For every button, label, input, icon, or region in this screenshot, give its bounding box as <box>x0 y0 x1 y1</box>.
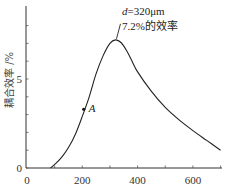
x-tick-label: 400 <box>129 174 146 186</box>
peak-annotation-line2: 7.2%的效率 <box>122 19 178 32</box>
y-axis-label: 耦合效率 /% <box>3 52 15 108</box>
peak-annotation-line1: d=320μm <box>122 5 165 17</box>
tick-labels: 020040060005 <box>17 73 202 186</box>
peak-leader-line <box>116 24 120 39</box>
y-tick-label: 5 <box>17 73 23 85</box>
x-tick-label: 200 <box>74 174 91 186</box>
y-tick-label: 0 <box>17 162 23 174</box>
efficiency-curve <box>51 40 221 168</box>
x-tick-label: 600 <box>185 174 202 186</box>
annotations: d=320μm7.2%的效率A <box>82 5 178 114</box>
x-tick-label: 0 <box>24 174 30 186</box>
chart: 020040060005 耦合效率 /% d=320μm7.2%的效率A <box>0 0 233 196</box>
point-a-marker <box>82 108 85 111</box>
point-a-label: A <box>88 102 96 114</box>
